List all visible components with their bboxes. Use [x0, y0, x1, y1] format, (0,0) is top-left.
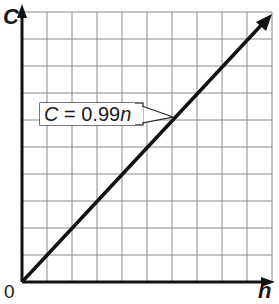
- data-line: [22, 20, 266, 282]
- equation-text: C = 0.99n: [44, 103, 131, 125]
- y-axis-label: C: [3, 4, 19, 30]
- origin-label: 0: [4, 281, 15, 303]
- x-axis-label: n: [258, 278, 271, 304]
- chart-canvas: [0, 0, 279, 304]
- equation-label: C = 0.99n: [40, 103, 135, 125]
